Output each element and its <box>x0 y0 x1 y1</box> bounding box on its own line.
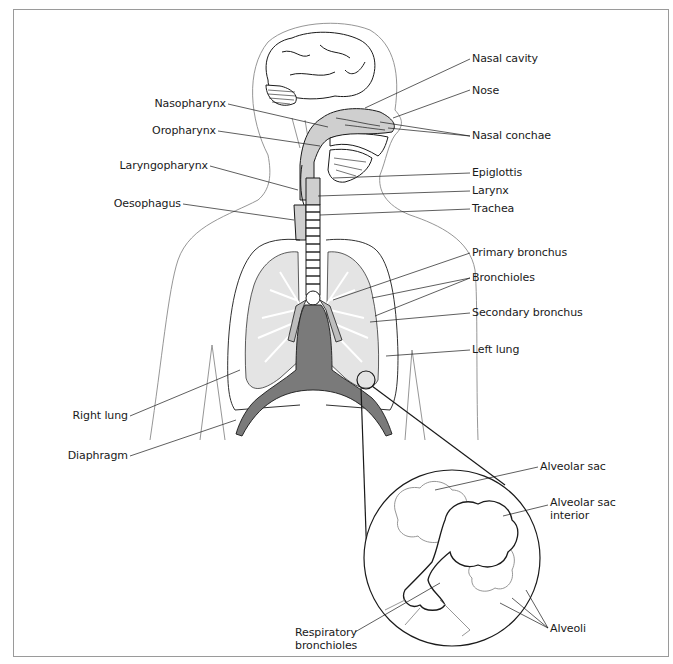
label-oesophagus: Oesophagus <box>80 197 181 210</box>
respiratory-system-illustration <box>0 0 673 664</box>
label-nasal-cavity: Nasal cavity <box>472 52 538 65</box>
airway-upper <box>300 109 394 205</box>
label-diaphragm: Diaphragm <box>40 449 128 462</box>
label-oropharynx: Oropharynx <box>110 124 216 137</box>
label-primary-bronchus: Primary bronchus <box>472 246 567 259</box>
label-left-lung: Left lung <box>472 343 519 356</box>
label-laryngopharynx: Laryngopharynx <box>100 159 208 172</box>
label-alveoli: Alveoli <box>550 622 586 635</box>
label-secondary-bronchus: Secondary bronchus <box>472 306 583 319</box>
brain <box>266 32 375 105</box>
label-respiratory-bronchioles-line1: Respiratory <box>295 626 357 639</box>
label-right-lung: Right lung <box>40 409 128 422</box>
label-epiglottis: Epiglottis <box>472 166 522 179</box>
label-nasopharynx: Nasopharynx <box>120 97 226 110</box>
label-nose: Nose <box>472 84 499 97</box>
label-alveolar-sac: Alveolar sac <box>540 460 606 473</box>
label-respiratory-bronchioles-line2: bronchioles <box>295 639 357 652</box>
label-alveolar-sac-interior-line2: interior <box>550 509 589 522</box>
label-nasal-conchae: Nasal conchae <box>472 129 551 142</box>
label-trachea: Trachea <box>472 202 514 215</box>
label-alveolar-sac-interior-line1: Alveolar sac <box>550 496 616 509</box>
label-bronchioles: Bronchioles <box>472 271 535 284</box>
label-larynx: Larynx <box>472 184 509 197</box>
